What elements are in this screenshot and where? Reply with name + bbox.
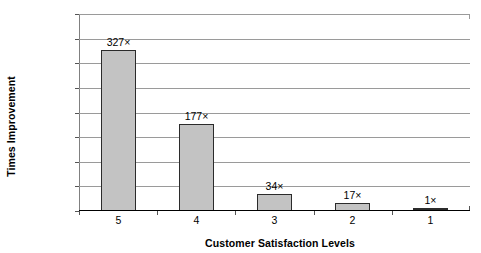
y-tick-mark [75, 137, 79, 138]
y-tick-mark [75, 63, 79, 64]
y-tick-mark [75, 162, 79, 163]
x-tick-mark [235, 211, 236, 215]
bar-value-label: 177× [165, 111, 228, 122]
x-tick-label: 3 [243, 215, 306, 226]
gridline [79, 113, 470, 114]
y-tick-mark [75, 113, 79, 114]
bar-4 [179, 124, 214, 211]
x-tick-label: 2 [321, 215, 384, 226]
plot-frame-cap [469, 14, 470, 19]
gridline [79, 137, 470, 138]
gridline [79, 162, 470, 163]
gridline [79, 63, 470, 64]
bar-value-label: 34× [243, 181, 306, 192]
x-tick-mark [392, 211, 393, 215]
bar-value-label: 17× [321, 190, 384, 201]
x-tick-mark [314, 211, 315, 215]
x-tick-label: 4 [165, 215, 228, 226]
bar-5 [101, 50, 136, 211]
bar-value-label: 1× [399, 195, 462, 206]
x-axis-line [79, 210, 470, 211]
gridline [79, 14, 470, 15]
bar-chart: Times Improvement 327×177×34×17×1× 40035… [0, 0, 481, 253]
y-tick-mark [75, 88, 79, 89]
plot-area: 327×177×34×17×1× [79, 14, 470, 211]
x-tick-mark [79, 211, 80, 215]
y-axis-title: Times Improvement [0, 0, 22, 253]
y-tick-mark [75, 14, 79, 15]
x-axis-title: Customer Satisfaction Levels [79, 237, 481, 249]
bar-value-label: 327× [87, 37, 150, 48]
x-tick-mark [157, 211, 158, 215]
gridline [79, 88, 470, 89]
y-tick-mark [75, 186, 79, 187]
bar-3 [257, 194, 292, 211]
x-tick-label: 1 [399, 215, 462, 226]
x-tick-label: 5 [87, 215, 150, 226]
y-tick-mark [75, 39, 79, 40]
